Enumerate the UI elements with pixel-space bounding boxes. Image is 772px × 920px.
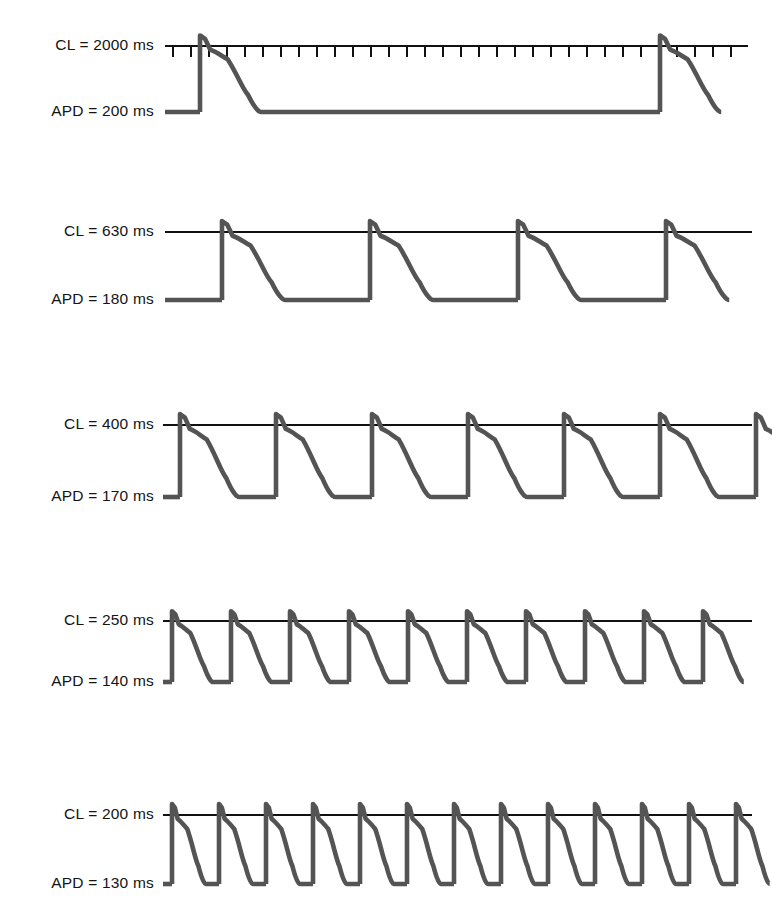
action-potential-beat: [180, 414, 276, 497]
panel-cl-250: CL = 250 msAPD = 140 ms: [0, 586, 772, 726]
action-potential-beat: [736, 804, 770, 884]
tick-mark-group: [173, 46, 731, 57]
action-potential-figure: CL = 2000 msAPD = 200 msCL = 630 msAPD =…: [0, 0, 772, 920]
trace-area: [0, 776, 772, 920]
trace-area: [0, 196, 772, 346]
action-potential-beat: [660, 414, 756, 497]
panel-cl-200: CL = 200 msAPD = 130 ms: [0, 776, 772, 920]
trace-area: [0, 586, 772, 726]
trace-area: [0, 390, 772, 540]
panel-cl-400: CL = 400 msAPD = 170 ms: [0, 390, 772, 540]
action-potential-beat: [372, 414, 468, 497]
action-potential-beat: [756, 414, 772, 497]
action-potential-beat: [564, 414, 660, 497]
panel-cl-2000: CL = 2000 msAPD = 200 ms: [0, 10, 772, 160]
action-potential-beat: [468, 414, 564, 497]
trace-area: [0, 10, 772, 160]
action-potential-train: [180, 414, 772, 497]
panel-cl-630: CL = 630 msAPD = 180 ms: [0, 196, 772, 346]
action-potential-beat: [276, 414, 372, 497]
